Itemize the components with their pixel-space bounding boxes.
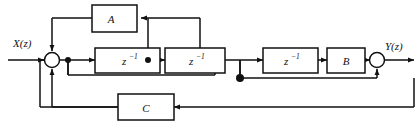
block-delay-2 [165,48,225,73]
svg-text:z: z [283,55,289,67]
block-B-label: B [343,55,350,67]
svg-text:−1: −1 [196,52,205,61]
block-A [92,5,137,32]
sum-right [370,53,385,68]
node-between-delays [145,57,151,63]
svg-text:z: z [121,55,127,67]
node-output-tap [236,74,244,82]
block-diagram-svg: X(z) Y(z) A z −1 z −1 z −1 B C [0,0,420,128]
svg-text:z: z [188,55,194,67]
block-diagram-canvas: X(z) Y(z) A z −1 z −1 z −1 B C [0,0,420,128]
svg-text:−1: −1 [129,52,138,61]
node-after-sum [65,57,71,63]
block-C-label: C [142,102,150,114]
output-label: Y(z) [385,40,403,53]
sum-left [45,53,60,68]
svg-text:−1: −1 [291,52,300,61]
block-A-label: A [107,13,115,25]
input-label: X(z) [12,37,32,50]
